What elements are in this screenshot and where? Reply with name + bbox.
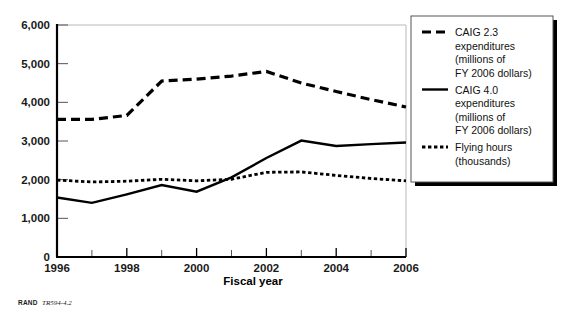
y-tick-label-2000: 2,000: [21, 174, 50, 186]
x-tick-label-2006: 2006: [393, 262, 419, 274]
y-axis-tick-labels: 01,0002,0003,0004,0005,0006,000: [21, 19, 50, 263]
x-tick-label-1996: 1996: [44, 262, 70, 274]
y-axis-ticks: [57, 25, 68, 218]
y-tick-label-5000: 5,000: [21, 58, 50, 70]
x-tick-label-2004: 2004: [323, 262, 349, 274]
legend: CAIG 2.3expenditures(millions ofFY 2006 …: [411, 16, 557, 186]
series-line-1: [57, 141, 406, 203]
legend-label-0-line-2: (millions of: [455, 53, 505, 65]
x-axis-tick-labels: 199619982000200220042006: [44, 262, 419, 274]
x-axis-title: Fiscal year: [223, 275, 283, 287]
legend-label-2-line-0: Flying hours: [455, 141, 512, 153]
series-group: [57, 71, 406, 202]
legend-label-1-line-2: (millions of: [455, 111, 505, 123]
figure-container: 01,0002,0003,0004,0005,0006,000 19961998…: [0, 0, 562, 319]
caption-figure-id: TR594-4.2: [42, 299, 72, 307]
legend-label-1-line-3: FY 2006 dollars): [455, 124, 532, 136]
legend-label-2-line-1: (thousands): [455, 155, 510, 167]
axis-lines: [56, 24, 406, 257]
legend-label-0-line-3: FY 2006 dollars): [455, 67, 532, 79]
x-tick-label-1998: 1998: [114, 262, 140, 274]
y-tick-label-4000: 4,000: [21, 96, 50, 108]
plot-frame: [57, 25, 406, 257]
legend-label-0-line-1: expenditures: [455, 40, 515, 52]
x-tick-label-2000: 2000: [184, 262, 210, 274]
caption-rand-logo: RAND: [18, 299, 38, 306]
y-tick-label-3000: 3,000: [21, 135, 50, 147]
figure-caption: RAND TR594-4.2: [18, 299, 72, 307]
y-tick-label-1000: 1,000: [21, 212, 50, 224]
legend-label-1-line-1: expenditures: [455, 97, 515, 109]
y-tick-label-6000: 6,000: [21, 19, 50, 31]
line-chart: 01,0002,0003,0004,0005,0006,000 19961998…: [0, 0, 562, 319]
x-axis-ticks: [57, 248, 406, 257]
x-tick-label-2002: 2002: [254, 262, 280, 274]
legend-label-0-line-0: CAIG 2.3: [455, 26, 498, 38]
legend-label-1-line-0: CAIG 4.0: [455, 84, 498, 96]
series-line-0: [57, 71, 406, 119]
